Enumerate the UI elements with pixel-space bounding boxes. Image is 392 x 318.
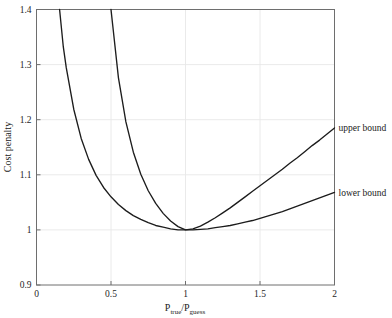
y-tick-label-0: 0.9 — [20, 280, 32, 290]
x-title-sub-guess: guess — [190, 308, 206, 316]
y-tick-label-1: 1 — [27, 225, 32, 235]
x-tick-label-4: 2 — [332, 289, 337, 299]
y-axis-tick-labels: 0.911.11.21.31.4 — [20, 5, 32, 291]
x-tick-label-3: 1.5 — [254, 289, 266, 299]
y-tick-label-4: 1.3 — [20, 60, 32, 70]
x-tick-label-2: 1 — [183, 289, 188, 299]
series-inline-labels: upper boundlower bound — [339, 123, 387, 197]
x-axis-title: Ptrue/Pguess — [165, 302, 206, 316]
y-tick-label-3: 1.2 — [20, 115, 32, 125]
series-label-lower-bound: lower bound — [339, 188, 387, 198]
y-tick-label-2: 1.1 — [20, 170, 32, 180]
svg-text:Ptrue/Pguess: Ptrue/Pguess — [165, 302, 206, 316]
x-title-sub-true: true — [170, 308, 181, 316]
y-axis-title: Cost penalty — [2, 122, 13, 172]
y-tick-label-5: 1.4 — [20, 5, 32, 15]
x-tick-label-1: 0.5 — [105, 289, 117, 299]
vertical-gridlines — [111, 10, 260, 286]
x-axis-tickmarks — [37, 281, 335, 285]
x-tick-label-0: 0 — [34, 289, 39, 299]
y-axis-tickmarks — [37, 10, 41, 286]
x-axis-tick-labels: 00.511.52 — [34, 289, 337, 299]
cost-penalty-chart: 0.911.11.21.31.4 00.511.52 upper boundlo… — [0, 0, 392, 318]
chart-figure: 0.911.11.21.31.4 00.511.52 upper boundlo… — [0, 0, 392, 318]
series-label-upper-bound: upper bound — [339, 123, 387, 133]
